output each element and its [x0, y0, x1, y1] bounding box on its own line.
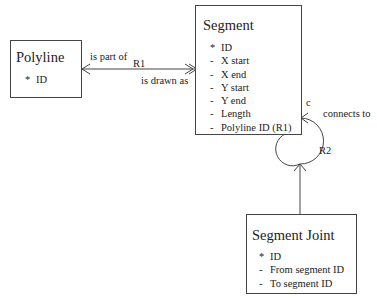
r1-forward-label: is part of	[90, 51, 127, 62]
polyline-attributes: *ID	[25, 73, 47, 86]
segment-title: Segment	[203, 17, 254, 34]
segment-joint-entity[interactable]: Segment Joint *ID -From segment ID -To s…	[246, 214, 357, 294]
segment-attributes: *ID -X start -X end -Y start -Y end -Len…	[210, 41, 292, 134]
r2-id-label: R2	[319, 145, 331, 156]
r2-label: connects to	[323, 108, 371, 119]
polyline-entity[interactable]: Polyline *ID	[10, 40, 82, 98]
segment-entity[interactable]: Segment *ID -X start -X end -Y start -Y …	[195, 5, 302, 135]
attribute: -From segment ID	[259, 263, 344, 276]
attribute: -X start	[210, 54, 292, 67]
attribute: -To segment ID	[259, 277, 344, 290]
attribute: -Polyline ID (R1)	[210, 121, 292, 134]
polyline-title: Polyline	[16, 49, 64, 66]
attribute: *ID	[25, 73, 47, 86]
attribute: -Length	[210, 107, 292, 120]
attribute: *ID	[210, 41, 292, 54]
r2-cond-label: c	[306, 97, 311, 108]
attribute: *ID	[259, 250, 344, 263]
segment-joint-attributes: *ID -From segment ID -To segment ID	[259, 250, 344, 290]
attribute: -Y start	[210, 81, 292, 94]
r1-id-label: R1	[133, 58, 145, 69]
attribute: -X end	[210, 68, 292, 81]
attribute: -Y end	[210, 94, 292, 107]
segment-joint-title: Segment Joint	[252, 227, 335, 244]
r1-reverse-label: is drawn as	[141, 75, 188, 86]
